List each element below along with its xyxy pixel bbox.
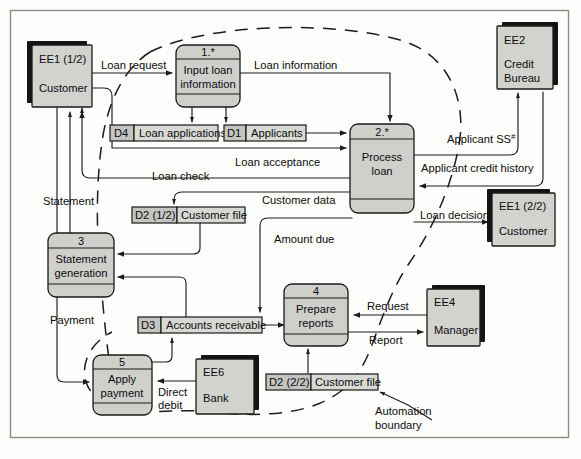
flow-loan-check-line — [82, 112, 350, 178]
entity-ee1-name: Customer — [39, 82, 88, 94]
datastore-d2b-name: Customer file — [315, 376, 381, 388]
process-5-apply-payment[interactable]: 5 Apply payment — [93, 355, 152, 415]
datastore-d1-applicants[interactable]: D1 Applicants — [224, 125, 306, 141]
entity-ee2-name-line1: Credit — [504, 58, 535, 70]
flow-label-report: Report — [369, 334, 403, 346]
datastore-d3-accounts-receivable[interactable]: D3 Accounts receivable — [138, 317, 266, 333]
process-1-line2: information — [180, 78, 235, 90]
process-4-prepare-reports[interactable]: 4 Prepare reports — [284, 284, 348, 346]
flow-p5-to-d3 — [152, 338, 172, 362]
datastore-d3-id: D3 — [141, 319, 155, 331]
datastore-d4-loan-applications[interactable]: D4 Loan applications — [110, 125, 226, 141]
flow-label-loan-acceptance: Loan acceptance — [235, 156, 320, 168]
flow-d2a-to-p3 — [118, 223, 200, 254]
flow-loan-information-line — [240, 73, 390, 121]
flow-label-direct-debit-line1: Direct — [158, 386, 188, 398]
datastore-d3-name: Accounts receivable — [166, 319, 266, 331]
entity-ee1-customer-1[interactable]: EE1 (1/2) Customer — [27, 41, 92, 107]
process-5-line2: payment — [101, 387, 145, 399]
annotation-automation-boundary-line2: boundary — [375, 419, 422, 431]
datastore-d4-id: D4 — [114, 127, 128, 139]
flow-label-direct-debit-line2: debit — [158, 399, 183, 411]
datastore-d4-name: Loan applications — [139, 127, 226, 139]
process-1-input-loan-information[interactable]: 1.* Input loan information — [176, 45, 240, 107]
datastore-d2a-customer-file[interactable]: D2 (1/2) Customer file — [132, 207, 247, 223]
flow-label-request: Request — [367, 300, 410, 312]
datastore-d1-name: Applicants — [251, 127, 303, 139]
entity-ee4-manager[interactable]: EE4 Manager — [427, 285, 485, 346]
process-3-line1: Statement — [56, 253, 108, 265]
entity-ee4-name: Manager — [434, 324, 478, 336]
flow-label-customer-data: Customer data — [262, 194, 336, 206]
process-2-line2: loan — [371, 165, 392, 177]
entity-ee1-id: EE1 (1/2) — [39, 53, 87, 65]
process-4-line1: Prepare — [296, 303, 336, 315]
entity-ee2-name-line2: Bureau — [504, 72, 540, 84]
entity-ee1-2-name: Customer — [499, 225, 548, 237]
flow-label-amount-due: Amount due — [274, 233, 334, 245]
entity-ee6-name: Bank — [203, 392, 229, 404]
process-2-number: 2.* — [375, 126, 389, 138]
flow-label-loan-decision: Loan decision — [420, 209, 489, 221]
datastore-d2b-id: D2 (2/2) — [269, 376, 310, 388]
flow-applicant-ss-line — [414, 93, 518, 155]
process-3-number: 3 — [78, 235, 84, 247]
entity-ee4-id: EE4 — [434, 296, 455, 308]
process-2-line1: Process — [362, 151, 403, 163]
entity-ee1-customer-2[interactable]: EE1 (2/2) Customer — [487, 189, 555, 246]
entity-ee1-2-id: EE1 (2/2) — [499, 200, 547, 212]
flow-label-statement: Statement — [43, 195, 95, 207]
process-1-line1: Input loan — [183, 64, 232, 76]
process-2-process-loan[interactable]: 2.* Process loan — [350, 124, 414, 213]
dfd-canvas: EE1 (1/2) Customer EE2 Credit Bureau EE1… — [0, 0, 581, 459]
process-5-number: 5 — [119, 356, 125, 368]
datastore-d2b-customer-file[interactable]: D2 (2/2) Customer file — [266, 374, 381, 390]
automation-boundary-leader — [380, 392, 408, 405]
process-3-line2: generation — [55, 267, 108, 279]
entity-ee6-bank[interactable]: EE6 Bank — [196, 355, 259, 414]
process-4-number: 4 — [313, 285, 319, 297]
process-1-number: 1.* — [201, 46, 215, 58]
flow-label-loan-information: Loan information — [254, 59, 337, 71]
process-4-line2: reports — [299, 317, 334, 329]
datastore-d2a-id: D2 (1/2) — [135, 209, 176, 221]
flow-label-payment: Payment — [50, 314, 95, 326]
process-3-statement-generation[interactable]: 3 Statement generation — [48, 233, 114, 297]
dfd-svg: EE1 (1/2) Customer EE2 Credit Bureau EE1… — [0, 0, 581, 459]
flow-label-loan-check: Loan check — [152, 170, 210, 182]
flow-label-applicant-ss: Applicant SS# — [447, 132, 516, 145]
process-5-line1: Apply — [108, 373, 136, 385]
entity-ee6-id: EE6 — [203, 366, 224, 378]
annotation-automation-boundary-line1: Automation — [375, 405, 432, 417]
entity-ee2-credit-bureau[interactable]: EE2 Credit Bureau — [497, 22, 558, 89]
flow-label-loan-request: Loan request — [101, 59, 167, 71]
datastore-d2a-name: Customer file — [181, 209, 247, 221]
entity-ee2-id: EE2 — [504, 34, 525, 46]
datastore-d1-id: D1 — [227, 127, 241, 139]
flow-label-applicant-credit-history: Applicant credit history — [421, 162, 534, 174]
